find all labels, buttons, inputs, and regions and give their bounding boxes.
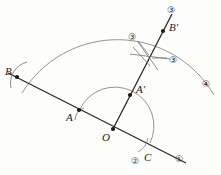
point-label-O: O [102,132,110,143]
step-label-3-left: ③ [128,33,136,42]
point-dot-O [111,127,115,131]
point-label-A-prime: A' [136,84,145,95]
figure-canvas [0,0,221,175]
base-ray-line [8,73,186,163]
step-label-3-right: ③ [169,56,177,65]
step-label-2: ② [131,157,139,166]
point-label-A: A [66,112,73,123]
point-dot-B [15,75,19,79]
point-label-B: B [5,66,12,77]
leader-line-step-3-left [138,41,149,55]
step-label-4: ④ [202,80,210,89]
step-label-1: ① [175,155,183,164]
point-dot-A [77,108,81,112]
point-label-C: C [144,152,151,163]
point-dot-Ap [128,93,132,97]
point-label-B-prime: B' [169,22,178,33]
point-dot-Bp [161,29,165,33]
geometry-figure: B A O A' B' C ① ② ③ ③ ③ ④ [0,0,221,175]
step-label-3-top: ③ [167,6,175,15]
